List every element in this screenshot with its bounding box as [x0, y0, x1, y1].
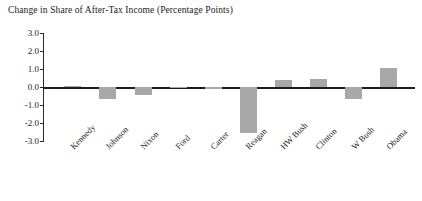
x-axis-labels: KennedyJohnsonNixonFordCarterReaganHW Bu…: [43, 145, 415, 197]
chart-title: Change in Share of After-Tax Income (Per…: [8, 4, 233, 16]
y-tick-label: 3.0: [28, 29, 39, 38]
bar: [275, 80, 292, 87]
bars-layer: [43, 33, 415, 141]
y-tick-mark: [40, 141, 44, 142]
bar: [99, 87, 116, 99]
bar: [310, 79, 327, 87]
plot-area: 3.02.01.00.0-1.0-2.0-3.0: [43, 33, 415, 141]
bar: [345, 87, 362, 99]
y-tick-label: -3.0: [25, 137, 39, 146]
y-tick-label: 0.0: [28, 83, 39, 92]
bar: [380, 68, 397, 87]
y-tick-label: 1.0: [28, 65, 39, 74]
bar: [64, 86, 81, 87]
bar: [135, 87, 152, 95]
y-tick-label: -1.0: [25, 101, 39, 110]
bar: [205, 87, 222, 89]
chart-figure: Change in Share of After-Tax Income (Per…: [0, 0, 422, 201]
bar: [170, 87, 187, 88]
y-tick-label: -2.0: [25, 119, 39, 128]
bar: [240, 87, 257, 133]
y-tick-label: 2.0: [28, 47, 39, 56]
